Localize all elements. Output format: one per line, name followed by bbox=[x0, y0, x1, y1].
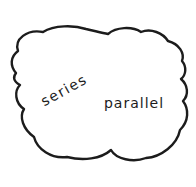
cloud-drawing bbox=[0, 0, 196, 187]
drawing-canvas: series parallel bbox=[0, 0, 196, 187]
cloud-outline bbox=[12, 26, 187, 160]
parallel-label: parallel bbox=[99, 95, 169, 111]
